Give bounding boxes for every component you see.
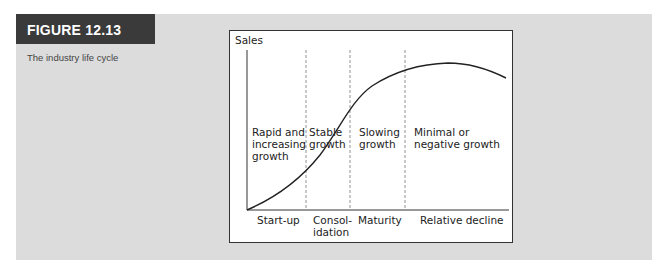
stage-4-desc-line-2: negative growth	[414, 138, 500, 150]
stage-1-desc-line-2: increasing	[252, 138, 306, 150]
stage-4-name: Relative decline	[420, 214, 504, 226]
stage-3-desc-line-2: growth	[359, 138, 396, 150]
stage-2-name-line-2: idation	[313, 226, 349, 238]
stage-1-desc-line-1: Rapid and	[252, 126, 305, 138]
stage-3-desc-line-1: Slowing	[359, 126, 400, 138]
stage-2-name-line-1: Consol-	[313, 214, 352, 226]
stage-2-desc-line-1: Stable	[309, 126, 342, 138]
stage-1-name: Start-up	[257, 214, 300, 226]
stage-2-desc-line-2: growth	[309, 138, 346, 150]
stage-4-desc-line-1: Minimal or	[414, 126, 470, 138]
y-axis-label: Sales	[235, 34, 263, 46]
stage-1-desc-line-3: growth	[252, 150, 289, 162]
stage-3-name: Maturity	[358, 214, 402, 226]
life-cycle-diagram: Sales Rapid and increasing growth Stable…	[0, 0, 667, 273]
